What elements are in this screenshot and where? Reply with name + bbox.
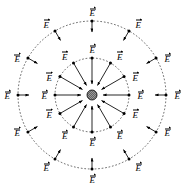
vector-tail-dot <box>165 94 168 97</box>
vector-tail-dot <box>91 57 94 60</box>
electric-field-diagram: EEEEEEEEEEEEEEEEEEEEEEEE <box>0 0 183 187</box>
vector-tail-dot <box>26 131 29 134</box>
field-vector <box>147 127 157 133</box>
vector-tail-dot <box>109 61 112 64</box>
vector-tail-dot <box>17 94 20 97</box>
vector-tail-dot <box>72 126 75 129</box>
field-vector <box>74 105 87 128</box>
field-vector <box>147 58 157 64</box>
vector-tail-dot <box>128 29 131 32</box>
vector-tail-dot <box>58 112 61 115</box>
field-vector <box>98 63 111 86</box>
field-vector <box>102 101 125 114</box>
vector-tail-dot <box>54 158 57 161</box>
field-vector <box>28 127 38 133</box>
vector-tail-dot <box>91 168 94 171</box>
field-vector <box>102 77 125 90</box>
vector-tail-dot <box>58 75 61 78</box>
vector-tail-dot <box>54 29 57 32</box>
point-charge-marker <box>87 90 97 100</box>
field-vector <box>74 63 87 86</box>
vector-tail-dot <box>155 131 158 134</box>
field-vector <box>124 31 130 41</box>
vector-tail-dot <box>155 57 158 60</box>
vector-tail-dot <box>91 20 94 23</box>
vector-tail-dot <box>72 61 75 64</box>
vector-tail-dot <box>128 158 131 161</box>
field-vector <box>55 150 61 160</box>
field-vector <box>60 101 83 114</box>
field-diagram-canvas <box>0 0 183 187</box>
field-vector <box>60 77 83 90</box>
vector-tail-dot <box>123 112 126 115</box>
field-vector <box>124 150 130 160</box>
vector-tail-dot <box>91 131 94 134</box>
vector-tail-dot <box>109 126 112 129</box>
point-charge <box>87 90 97 100</box>
field-vector <box>98 105 111 128</box>
vector-tail-dot <box>54 94 57 97</box>
vector-tail-dot <box>26 57 29 60</box>
field-vector <box>55 31 61 41</box>
vector-tail-dot <box>128 94 131 97</box>
field-vector <box>28 58 38 64</box>
vector-tail-dot <box>123 75 126 78</box>
